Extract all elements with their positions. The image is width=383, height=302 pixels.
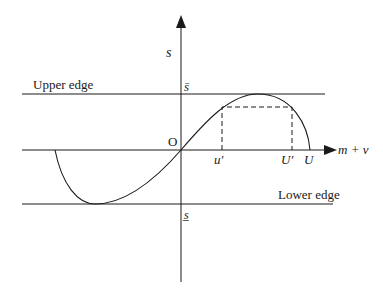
x-axis-label: m + v [338, 142, 369, 157]
y-axis-label: s [166, 45, 172, 60]
dashed-range-box [222, 107, 292, 150]
supply-curve [55, 94, 310, 204]
x-axis-arrow-icon [324, 145, 337, 155]
U-label: U [304, 152, 315, 167]
lower-edge-label: Lower edge [278, 187, 340, 202]
upper-value-label: s̄ [184, 79, 190, 94]
diagram-canvas: Upper edge Lower edge s O m + v s̄ s̲ u′… [0, 0, 383, 302]
y-axis-arrow-icon [176, 15, 186, 28]
upper-edge-label: Upper edge [33, 77, 94, 92]
lower-value-label: s̲ [182, 208, 189, 222]
U-prime-label: U′ [281, 152, 293, 167]
origin-label: O [168, 134, 177, 149]
u-prime-label: u′ [214, 152, 224, 167]
